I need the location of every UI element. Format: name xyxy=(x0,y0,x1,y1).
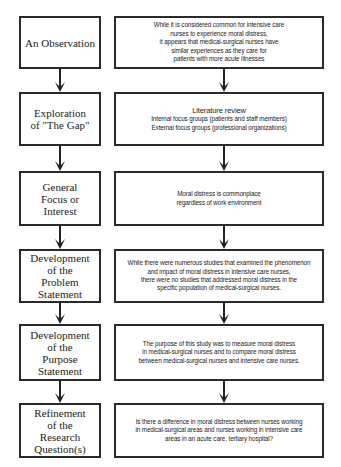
detail-box-focus: Moral distress is commonplace regardless… xyxy=(114,171,324,226)
down-arrow-icon xyxy=(55,146,65,171)
detail-text: Is there a difference in moral distress … xyxy=(135,418,302,443)
down-arrow-icon xyxy=(55,303,65,324)
stage-label: Exploration of "The Gap" xyxy=(30,107,89,131)
stage-box-purpose: Development of the Purpose Statement xyxy=(19,324,101,381)
stage-box-observation: An Observation xyxy=(19,16,101,69)
detail-text: The purpose of this study was to measure… xyxy=(138,340,299,365)
down-arrow-icon xyxy=(55,381,65,403)
detail-heading: Literature review xyxy=(192,106,246,115)
stage-label: An Observation xyxy=(25,37,95,49)
detail-box-problem: While there were numerous studies that e… xyxy=(114,249,324,303)
detail-text: While there were numerous studies that e… xyxy=(128,259,311,293)
detail-text: While it is considered common for intens… xyxy=(154,21,284,63)
down-arrow-icon xyxy=(219,146,229,171)
detail-box-research-question: Is there a difference in moral distress … xyxy=(114,403,324,458)
stage-label: Refinement of the Research Question(s) xyxy=(34,407,85,455)
detail-text: Moral distress is commonplace regardless… xyxy=(177,190,262,207)
stage-box-problem: Development of the Problem Statement xyxy=(19,249,101,303)
down-arrow-icon xyxy=(55,69,65,92)
detail-text: Internal focus groups (patients and staf… xyxy=(151,115,287,132)
stage-box-gap: Exploration of "The Gap" xyxy=(19,92,101,146)
down-arrow-icon xyxy=(219,69,229,92)
stage-box-research-question: Refinement of the Research Question(s) xyxy=(19,403,101,458)
stage-label: Development of the Problem Statement xyxy=(30,252,89,300)
stage-label: Development of the Purpose Statement xyxy=(30,329,89,377)
detail-box-purpose: The purpose of this study was to measure… xyxy=(114,324,324,381)
down-arrow-icon xyxy=(219,303,229,324)
down-arrow-icon xyxy=(55,226,65,249)
down-arrow-icon xyxy=(219,381,229,403)
detail-box-observation: While it is considered common for intens… xyxy=(114,16,324,69)
detail-box-gap: Literature review Internal focus groups … xyxy=(114,92,324,146)
stage-box-focus: General Focus or Interest xyxy=(19,171,101,226)
down-arrow-icon xyxy=(219,226,229,249)
stage-label: General Focus or Interest xyxy=(41,181,79,217)
